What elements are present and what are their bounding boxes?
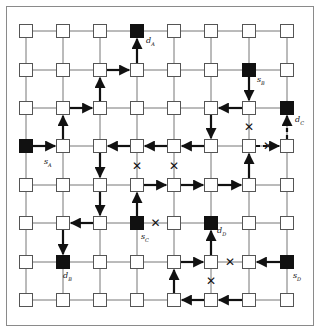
grid-node xyxy=(281,25,294,38)
grid-node xyxy=(131,294,144,307)
terminal-node-sA xyxy=(20,140,33,153)
grid-node xyxy=(57,217,70,230)
grid-node xyxy=(20,256,33,269)
grid-node xyxy=(57,179,70,192)
grid-node xyxy=(94,217,107,230)
grid-nodes xyxy=(20,25,294,307)
terminal-node-sC xyxy=(131,217,144,230)
grid-node xyxy=(20,217,33,230)
terminal-label-sA: sA xyxy=(44,157,52,168)
grid-node xyxy=(243,179,256,192)
grid-node xyxy=(57,294,70,307)
grid-node xyxy=(131,179,144,192)
grid-node xyxy=(168,25,181,38)
grid-node xyxy=(131,64,144,77)
grid-node xyxy=(20,64,33,77)
mesh-routing-diagram: ✕✕✕✕✕✕✕ sAdAsBdBsCdCsDdD xyxy=(0,0,321,331)
terminal-label-dA: dA xyxy=(146,36,155,47)
grid-node xyxy=(94,64,107,77)
grid-node xyxy=(281,217,294,230)
grid-node xyxy=(205,294,218,307)
terminal-label-sD: sD xyxy=(293,271,301,282)
grid-node xyxy=(243,294,256,307)
grid-node xyxy=(281,179,294,192)
grid-node xyxy=(20,25,33,38)
grid-node xyxy=(205,64,218,77)
terminal-node-dC xyxy=(281,102,294,115)
grid-node xyxy=(94,140,107,153)
blocked-link-x-icon: ✕ xyxy=(263,139,273,153)
terminal-node-dA xyxy=(131,25,144,38)
grid-node xyxy=(205,179,218,192)
grid-node xyxy=(94,102,107,115)
grid-node xyxy=(243,140,256,153)
grid-node xyxy=(281,140,294,153)
terminal-label-sC: sC xyxy=(141,232,149,243)
grid-node xyxy=(281,294,294,307)
grid-node xyxy=(94,179,107,192)
grid-node xyxy=(205,25,218,38)
terminal-node-dB xyxy=(57,256,70,269)
grid-node xyxy=(94,25,107,38)
grid-node xyxy=(168,102,181,115)
grid-node xyxy=(57,140,70,153)
grid-node xyxy=(168,179,181,192)
grid-node xyxy=(20,102,33,115)
grid-node xyxy=(20,179,33,192)
grid-node xyxy=(131,140,144,153)
grid-node xyxy=(57,102,70,115)
grid-node xyxy=(281,64,294,77)
grid-node xyxy=(94,294,107,307)
blocked-link-x-icon: ✕ xyxy=(169,159,179,173)
grid-node xyxy=(57,25,70,38)
grid-node xyxy=(205,102,218,115)
grid-node xyxy=(243,256,256,269)
blocked-link-x-icon: ✕ xyxy=(244,120,254,134)
blocked-link-x-icon: ✕ xyxy=(150,216,160,230)
terminal-label-sB: sB xyxy=(257,75,265,86)
grid-node xyxy=(243,25,256,38)
grid-node xyxy=(57,64,70,77)
terminal-label-dC: dC xyxy=(295,115,304,126)
grid-node xyxy=(168,217,181,230)
grid-node xyxy=(94,256,107,269)
grid-node xyxy=(168,140,181,153)
terminal-node-sB xyxy=(243,64,256,77)
terminal-label-dB: dB xyxy=(63,271,72,282)
terminal-node-sD xyxy=(281,256,294,269)
terminal-label-dD: dD xyxy=(217,226,226,237)
blocked-link-x-icon: ✕ xyxy=(206,274,216,288)
grid-node xyxy=(20,294,33,307)
grid-node xyxy=(205,140,218,153)
grid-node xyxy=(168,294,181,307)
grid-node xyxy=(168,64,181,77)
blocked-link-x-icon: ✕ xyxy=(225,255,235,269)
grid-node xyxy=(131,256,144,269)
grid-node xyxy=(205,256,218,269)
grid-node xyxy=(131,102,144,115)
grid-node xyxy=(243,102,256,115)
grid-node xyxy=(168,256,181,269)
terminal-node-dD xyxy=(205,217,218,230)
grid-node xyxy=(243,217,256,230)
blocked-link-x-icon: ✕ xyxy=(132,159,142,173)
